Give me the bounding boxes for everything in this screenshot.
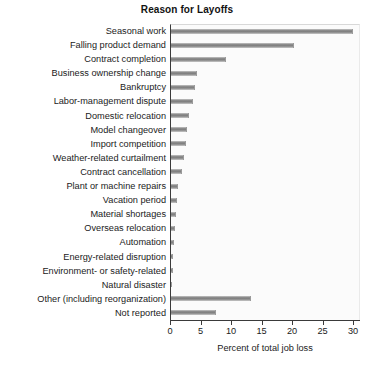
category-label: Import competition	[0, 137, 166, 151]
category-label: Material shortages	[0, 207, 166, 221]
category-label: Falling product demand	[0, 38, 166, 52]
bar	[171, 184, 178, 189]
bar	[171, 99, 193, 104]
category-label: Seasonal work	[0, 24, 166, 38]
bar	[171, 43, 294, 48]
category-label: Contract cancellation	[0, 165, 166, 179]
bar	[171, 57, 226, 62]
x-tick-label: 0	[155, 326, 185, 336]
category-label: Plant or machine repairs	[0, 179, 166, 193]
bar	[171, 268, 173, 273]
bar	[171, 127, 187, 132]
x-tick-label: 5	[186, 326, 216, 336]
bar-rows: Seasonal workFalling product demandContr…	[0, 24, 374, 320]
x-tick	[201, 320, 202, 325]
bar	[171, 254, 173, 259]
bar	[171, 113, 189, 118]
bar-row: Business ownership change	[0, 66, 374, 80]
chart-title: Reason for Layoffs	[0, 4, 374, 15]
category-label: Weather-related curtailment	[0, 151, 166, 165]
category-label: Model changeover	[0, 123, 166, 137]
bar	[171, 29, 353, 34]
category-label: Bankruptcy	[0, 80, 166, 94]
bar-row: Contract completion	[0, 52, 374, 66]
x-tick	[262, 320, 263, 325]
bar-row: Environment- or safety-related	[0, 264, 374, 278]
bar-row: Bankruptcy	[0, 80, 374, 94]
x-tick-label: 30	[338, 326, 368, 336]
x-axis-line	[170, 320, 360, 321]
bar-row: Weather-related curtailment	[0, 151, 374, 165]
bar	[171, 169, 182, 174]
bar	[171, 296, 251, 301]
x-tick-label: 15	[247, 326, 277, 336]
x-tick-label: 25	[308, 326, 338, 336]
bar-row: Plant or machine repairs	[0, 179, 374, 193]
bar	[171, 310, 216, 315]
bar-row: Import competition	[0, 137, 374, 151]
category-label: Automation	[0, 235, 166, 249]
bar-row: Contract cancellation	[0, 165, 374, 179]
category-label: Vacation period	[0, 193, 166, 207]
bar-row: Natural disaster	[0, 278, 374, 292]
bar-row: Falling product demand	[0, 38, 374, 52]
bar	[171, 226, 175, 231]
x-axis-label: Percent of total job loss	[170, 343, 360, 353]
x-tick	[353, 320, 354, 325]
bar-row: Domestic relocation	[0, 109, 374, 123]
x-tick-label: 10	[216, 326, 246, 336]
category-label: Not reported	[0, 306, 166, 320]
bar	[171, 155, 184, 160]
bar-row: Material shortages	[0, 207, 374, 221]
category-label: Natural disaster	[0, 278, 166, 292]
bar-row: Labor-management dispute	[0, 94, 374, 108]
x-tick	[231, 320, 232, 325]
bar	[171, 282, 172, 287]
category-label: Contract completion	[0, 52, 166, 66]
bar	[171, 198, 177, 203]
bar-row: Model changeover	[0, 123, 374, 137]
x-tick	[292, 320, 293, 325]
bar-row: Other (including reorganization)	[0, 292, 374, 306]
x-tick	[323, 320, 324, 325]
category-label: Labor-management dispute	[0, 94, 166, 108]
bar-row: Vacation period	[0, 193, 374, 207]
bar	[171, 71, 197, 76]
chart-figure: Reason for Layoffs Seasonal workFalling …	[0, 0, 374, 366]
x-tick	[170, 320, 171, 325]
bar-row: Energy-related disruption	[0, 250, 374, 264]
category-label: Other (including reorganization)	[0, 292, 166, 306]
bar	[171, 212, 176, 217]
bar-row: Automation	[0, 235, 374, 249]
category-label: Business ownership change	[0, 66, 166, 80]
category-label: Overseas relocation	[0, 221, 166, 235]
bar-row: Not reported	[0, 306, 374, 320]
category-label: Environment- or safety-related	[0, 264, 166, 278]
bar	[171, 85, 195, 90]
bar-row: Seasonal work	[0, 24, 374, 38]
bar	[171, 240, 174, 245]
bar-row: Overseas relocation	[0, 221, 374, 235]
category-label: Energy-related disruption	[0, 250, 166, 264]
x-tick-label: 20	[277, 326, 307, 336]
bar	[171, 141, 186, 146]
category-label: Domestic relocation	[0, 109, 166, 123]
